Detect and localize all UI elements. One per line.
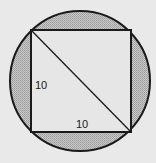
bottom-side-length-label: 10 xyxy=(76,118,88,130)
geometry-figure: 10 10 xyxy=(0,0,156,163)
left-side-length-label: 10 xyxy=(35,79,47,91)
